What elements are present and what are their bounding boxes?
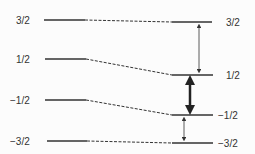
dashed-connectors	[85, 20, 172, 143]
right-levels	[172, 22, 213, 143]
right-label-minus-1-2: −1/2	[218, 110, 238, 121]
left-label-3-2: 3/2	[16, 15, 30, 26]
right-label-3-2: 3/2	[226, 17, 240, 28]
left-levels	[44, 20, 87, 141]
left-label-minus-1-2: −1/2	[10, 95, 30, 106]
left-label-minus-3-2: −3/2	[10, 136, 30, 147]
right-label-minus-3-2: −3/2	[218, 138, 238, 149]
left-label-1-2: 1/2	[16, 54, 30, 65]
right-label-1-2: 1/2	[226, 70, 240, 81]
energy-level-diagram: 3/2 1/2 −1/2 −3/2 3/2 1/2 −1/2 −3/2	[0, 0, 255, 154]
